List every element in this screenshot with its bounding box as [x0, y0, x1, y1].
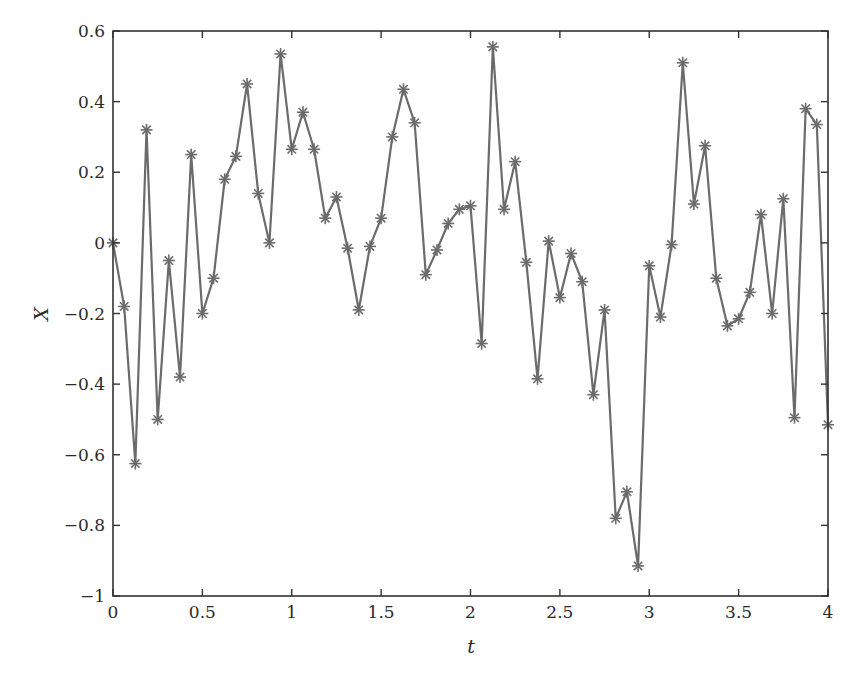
data-point-asterisk-marker: [442, 217, 454, 229]
data-point-asterisk-marker: [587, 389, 599, 401]
data-point-asterisk-marker: [755, 209, 767, 221]
data-point-asterisk-marker: [487, 41, 499, 53]
data-point-asterisk-marker: [431, 244, 443, 256]
x-tick-label: 2: [465, 602, 476, 622]
x-tick-label: 0.5: [189, 602, 216, 622]
data-point-asterisk-marker: [453, 203, 465, 215]
data-point-asterisk-marker: [621, 486, 633, 498]
data-point-asterisk-marker: [465, 200, 477, 212]
data-point-asterisk-marker: [576, 276, 588, 288]
x-tick-label: 4: [823, 602, 834, 622]
y-tick-label: 0.6: [78, 21, 105, 41]
series-line: [113, 47, 828, 566]
data-point-asterisk-marker: [330, 191, 342, 203]
data-point-asterisk-marker: [386, 131, 398, 143]
data-point-asterisk-marker: [230, 150, 242, 162]
data-point-asterisk-marker: [152, 413, 164, 425]
data-point-asterisk-marker: [252, 187, 264, 199]
data-point-asterisk-marker: [532, 373, 544, 385]
y-tick-label: 0.4: [78, 92, 105, 112]
y-axis-ticks: −1−0.8−0.6−0.4−0.200.20.40.6: [64, 21, 828, 606]
y-tick-label: 0: [94, 233, 105, 253]
x-tick-label: 2.5: [546, 602, 573, 622]
data-point-asterisk-marker: [118, 300, 130, 312]
data-point-asterisk-marker: [666, 239, 678, 251]
x-tick-label: 3.5: [725, 602, 752, 622]
data-point-asterisk-marker: [163, 255, 175, 267]
data-point-asterisk-marker: [599, 304, 611, 316]
data-point-asterisk-marker: [520, 256, 532, 268]
y-tick-label: −1: [80, 586, 105, 606]
data-point-asterisk-marker: [733, 313, 745, 325]
data-point-asterisk-marker: [409, 117, 421, 129]
data-point-asterisk-marker: [319, 212, 331, 224]
data-point-asterisk-marker: [129, 458, 141, 470]
data-point-asterisk-marker: [308, 143, 320, 155]
data-point-asterisk-marker: [397, 83, 409, 95]
y-tick-label: 0.2: [78, 162, 105, 182]
data-point-asterisk-marker: [353, 304, 365, 316]
data-point-asterisk-marker: [721, 320, 733, 332]
data-point-asterisk-marker: [476, 338, 488, 350]
data-point-asterisk-marker: [420, 269, 432, 281]
y-tick-label: −0.4: [64, 374, 105, 394]
data-point-asterisk-marker: [297, 106, 309, 118]
data-point-asterisk-marker: [610, 512, 622, 524]
data-point-asterisk-marker: [800, 103, 812, 115]
data-point-asterisk-marker: [375, 212, 387, 224]
axes-box: [113, 31, 828, 596]
x-axis-label: t: [467, 635, 475, 657]
data-point-asterisk-marker: [543, 235, 555, 247]
data-point-asterisk-marker: [688, 198, 700, 210]
data-point-asterisk-marker: [263, 237, 275, 249]
line-chart: 00.511.522.533.54 −1−0.8−0.6−0.4−0.200.2…: [0, 0, 865, 681]
data-point-asterisk-marker: [275, 48, 287, 60]
data-point-asterisk-marker: [196, 308, 208, 320]
data-point-asterisk-marker: [286, 143, 298, 155]
x-tick-label: 1.5: [368, 602, 395, 622]
data-point-asterisk-marker: [710, 272, 722, 284]
data-point-asterisk-marker: [744, 286, 756, 298]
data-point-asterisk-marker: [699, 140, 711, 152]
data-point-asterisk-marker: [185, 149, 197, 161]
data-point-asterisk-marker: [565, 247, 577, 259]
data-point-asterisk-marker: [654, 311, 666, 323]
data-point-asterisk-marker: [498, 203, 510, 215]
data-point-asterisk-marker: [554, 292, 566, 304]
data-point-asterisk-marker: [241, 78, 253, 90]
series-x-of-t: [107, 41, 834, 572]
y-tick-label: −0.2: [64, 304, 105, 324]
x-tick-label: 3: [644, 602, 655, 622]
data-point-asterisk-marker: [208, 272, 220, 284]
data-point-asterisk-marker: [364, 240, 376, 252]
y-axis-label: X: [30, 306, 52, 323]
data-point-asterisk-marker: [643, 260, 655, 272]
data-point-asterisk-marker: [777, 193, 789, 205]
data-point-asterisk-marker: [788, 412, 800, 424]
x-tick-label: 1: [286, 602, 297, 622]
data-point-asterisk-marker: [219, 173, 231, 185]
chart-canvas: 00.511.522.533.54 −1−0.8−0.6−0.4−0.200.2…: [0, 0, 865, 681]
data-point-asterisk-marker: [174, 371, 186, 383]
data-point-asterisk-marker: [141, 124, 153, 136]
data-point-asterisk-marker: [766, 308, 778, 320]
y-tick-label: −0.6: [64, 445, 105, 465]
data-point-asterisk-marker: [632, 560, 644, 572]
x-tick-label: 0: [108, 602, 119, 622]
y-tick-label: −0.8: [64, 515, 105, 535]
data-point-asterisk-marker: [342, 242, 354, 254]
data-point-asterisk-marker: [677, 57, 689, 69]
axes-frame: [113, 31, 828, 596]
data-point-asterisk-marker: [811, 119, 823, 131]
data-point-asterisk-marker: [509, 156, 521, 168]
